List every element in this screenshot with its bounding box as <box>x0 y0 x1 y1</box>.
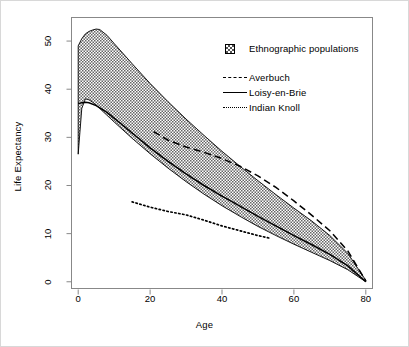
dashed-line-key-icon <box>223 77 249 78</box>
y-tick-label: 0 <box>42 279 53 284</box>
x-tick-label: 20 <box>145 293 156 304</box>
hatched-square-swatch-icon <box>223 44 249 54</box>
legend-line-entries: AverbuchLoisy-en-BrieIndian Knoll <box>223 70 373 115</box>
y-tick-label: 50 <box>42 36 53 47</box>
x-tick-label: 60 <box>289 293 300 304</box>
y-tick-label: 30 <box>42 132 53 143</box>
legend-row-averbuch: Averbuch <box>223 70 373 85</box>
y-tick-label: 20 <box>42 180 53 191</box>
dotted-line-key-icon <box>223 107 249 108</box>
x-tick-label: 40 <box>217 293 228 304</box>
chart-legend: Ethnographic populations AverbuchLoisy-e… <box>223 41 373 115</box>
legend-row-loisy-en-brie: Loisy-en-Brie <box>223 85 373 100</box>
y-tick-label: 10 <box>42 228 53 239</box>
x-tick-label: 0 <box>76 293 81 304</box>
legend-row-indian-knoll: Indian Knoll <box>223 100 373 115</box>
solid-line-key-icon <box>223 92 249 93</box>
y-tick-label: 40 <box>42 84 53 95</box>
legend-label-averbuch: Averbuch <box>249 72 290 83</box>
x-tick-label: 80 <box>361 293 372 304</box>
legend-row-band: Ethnographic populations <box>223 41 373 56</box>
x-axis-title: Age <box>1 319 408 330</box>
y-axis-title: Life Expectancy <box>12 102 23 212</box>
legend-spacer <box>223 56 373 70</box>
legend-label-loisy-en-brie: Loisy-en-Brie <box>249 87 306 98</box>
chart-figure: Life Expectancy Age 02040608001020304050… <box>0 0 409 347</box>
legend-label-band: Ethnographic populations <box>249 43 359 54</box>
legend-label-indian-knoll: Indian Knoll <box>249 102 300 113</box>
